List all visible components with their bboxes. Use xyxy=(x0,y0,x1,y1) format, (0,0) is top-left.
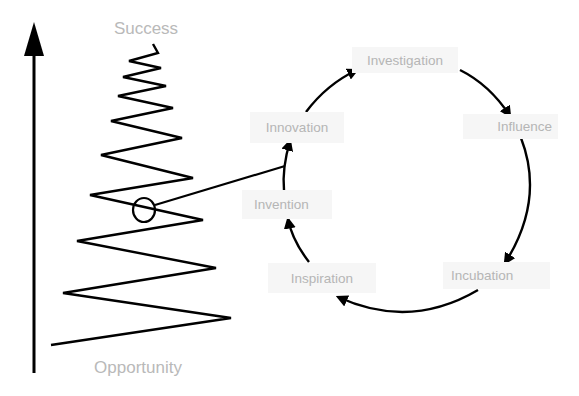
node-influence: Influence xyxy=(463,114,558,139)
edge-innovation-investigation xyxy=(306,70,357,112)
arrowhead-up-icon xyxy=(24,22,44,56)
edge-influence-incubation xyxy=(505,138,530,263)
node-inspiration: Inspiration xyxy=(268,263,376,293)
zigzag-line xyxy=(51,44,231,345)
edge-invention-innovation xyxy=(284,141,290,190)
axis-label-opportunity: Opportunity xyxy=(94,358,182,378)
node-innovation: Innovation xyxy=(250,112,344,143)
vertical-axis-arrow xyxy=(24,22,44,373)
edge-incubation-inspiration xyxy=(338,290,478,312)
callout-circle xyxy=(133,198,155,222)
node-incubation: Incubation xyxy=(443,262,550,289)
edge-investigation-influence xyxy=(460,70,510,116)
axis-label-success: Success xyxy=(114,19,178,39)
node-investigation: Investigation xyxy=(352,47,458,73)
edge-inspiration-invention xyxy=(288,219,309,262)
node-invention: Invention xyxy=(242,190,332,219)
